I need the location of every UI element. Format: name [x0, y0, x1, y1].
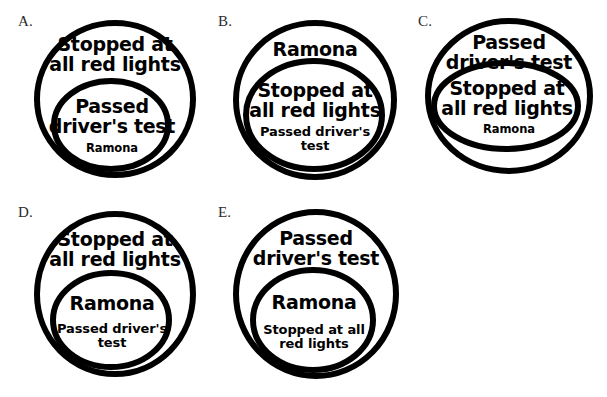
- inner-ellipse-e: [253, 270, 373, 370]
- inner-subject-label-b: Passed driver's test: [245, 125, 385, 153]
- diagram-option-d[interactable]: Stopped at all red lights Ramona Passed …: [32, 209, 198, 379]
- euler-diagram-answer-choices: A. Stopped at all red lights Passed driv…: [0, 0, 607, 397]
- inner-set-label-a: Passed driver's test: [44, 96, 180, 136]
- diagram-option-c[interactable]: Passed driver's test Stopped at all red …: [423, 16, 595, 176]
- inner-set-label-c: Stopped at all red lights: [431, 78, 583, 118]
- inner-subject-label-c: Ramona: [436, 123, 582, 135]
- inner-subject-label-d: Passed driver's test: [44, 322, 180, 350]
- option-label-a: A.: [18, 14, 33, 29]
- inner-subject-label-a: Ramona: [44, 142, 180, 154]
- diagram-option-b[interactable]: Ramona Stopped at all red lights Passed …: [231, 18, 399, 182]
- outer-set-label-c: Passed driver's test: [436, 32, 582, 72]
- inner-set-label-b: Stopped at all red lights: [240, 80, 390, 120]
- inner-set-label-d: Ramona: [46, 293, 178, 313]
- outer-set-label-a: Stopped at all red lights: [40, 34, 190, 74]
- option-label-d: D.: [18, 205, 33, 220]
- outer-set-label-e: Passed driver's test: [241, 228, 391, 268]
- diagram-option-e[interactable]: Passed driver's test Ramona Stopped at a…: [231, 207, 401, 381]
- inner-set-label-e: Ramona: [248, 292, 380, 312]
- inner-ellipse-d: [53, 273, 169, 367]
- diagram-option-a[interactable]: Stopped at all red lights Passed driver'…: [32, 18, 198, 180]
- option-label-e: E.: [218, 205, 231, 220]
- outer-set-label-d: Stopped at all red lights: [40, 229, 190, 269]
- inner-subject-label-e: Stopped at all red lights: [245, 323, 383, 351]
- outer-set-label-b: Ramona: [245, 39, 385, 59]
